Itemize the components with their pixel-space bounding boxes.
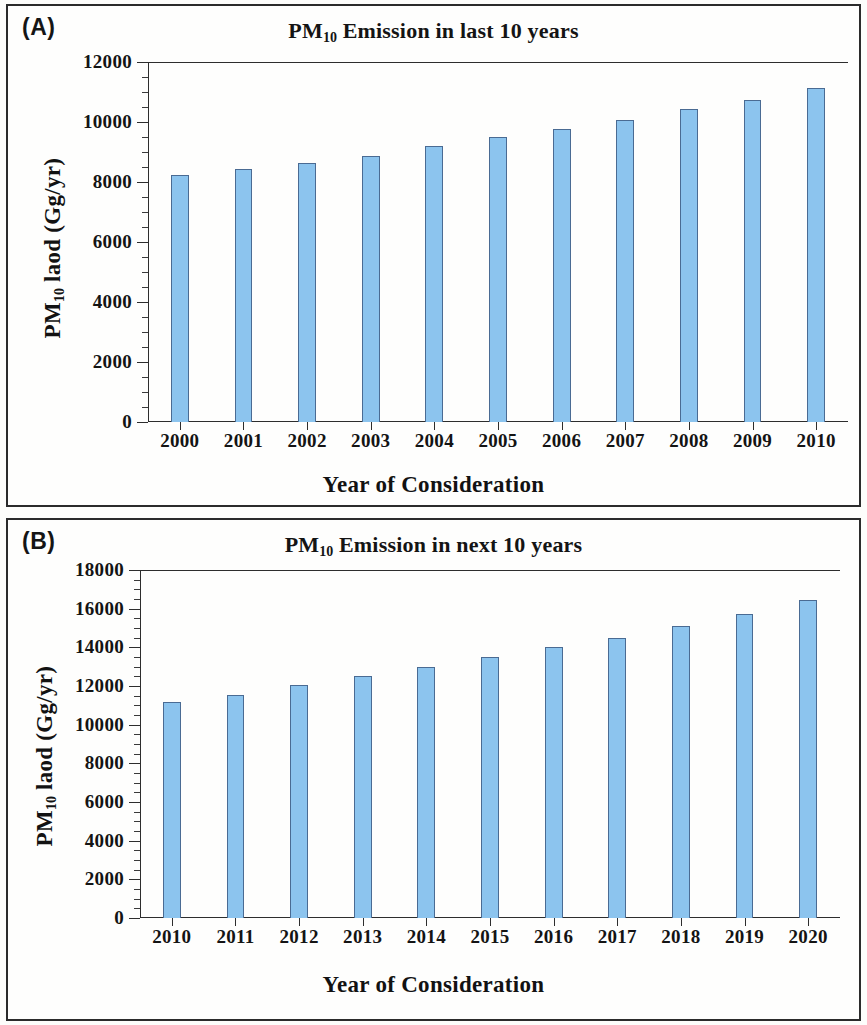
bar — [608, 638, 626, 918]
bar — [290, 685, 308, 918]
y-tick-label: 4000 — [93, 291, 132, 313]
plot-area-a: 020004000600080001000012000 — [148, 62, 848, 422]
y-tick-minor — [134, 676, 140, 677]
bar — [744, 100, 762, 422]
x-tick — [681, 918, 682, 926]
y-tick-major — [137, 362, 148, 363]
y-tick-minor — [134, 870, 140, 871]
x-tick — [490, 918, 491, 926]
x-tick-label: 2000 — [160, 430, 199, 452]
x-tick — [753, 422, 754, 430]
y-tick-minor — [142, 92, 148, 93]
plot-area-b: 0200040006000800010000120001400016000180… — [140, 570, 840, 918]
x-tick — [426, 918, 427, 926]
x-tick-label: 2017 — [598, 926, 637, 948]
bar — [807, 88, 825, 422]
y-tick-minor — [142, 77, 148, 78]
bar — [489, 137, 507, 422]
y-tick-minor — [134, 589, 140, 590]
y-tick-minor — [142, 272, 148, 273]
y-tick-label: 2000 — [93, 351, 132, 373]
x-tick-label: 2005 — [478, 430, 517, 452]
bar — [354, 676, 372, 918]
x-tick-label: 2018 — [661, 926, 700, 948]
y-tick-minor — [134, 657, 140, 658]
bar — [481, 657, 499, 918]
chart-title-b-suffix: Emission in next 10 years — [333, 532, 582, 557]
y-tick-minor — [142, 137, 148, 138]
y-axis-title-a-prefix: PM — [40, 302, 65, 338]
y-tick-label: 8000 — [85, 752, 124, 774]
x-tick — [243, 422, 244, 430]
x-tick-label: 2007 — [606, 430, 645, 452]
x-tick — [498, 422, 499, 430]
y-tick-label: 2000 — [85, 868, 124, 890]
y-tick-label: 8000 — [93, 171, 132, 193]
y-tick-major — [129, 725, 140, 726]
x-tick — [617, 918, 618, 926]
y-tick-minor — [142, 287, 148, 288]
bar — [417, 667, 435, 918]
y-tick-minor — [142, 167, 148, 168]
chart-title-a: PM10 Emission in last 10 years — [8, 18, 859, 46]
y-axis-title-b-prefix: PM — [32, 810, 57, 846]
x-tick — [816, 422, 817, 430]
y-tick-major — [137, 182, 148, 183]
x-tick — [371, 422, 372, 430]
y-tick-major — [137, 62, 148, 63]
y-tick-minor — [134, 628, 140, 629]
y-tick-minor — [142, 197, 148, 198]
y-tick-minor — [142, 107, 148, 108]
y-axis-title-a-suffix: laod (Gg/yr) — [40, 158, 65, 288]
x-tick-label: 2011 — [216, 926, 254, 948]
x-axis-labels-a: 2000200120022003200420052006200720082009… — [148, 430, 848, 456]
x-tick-label: 2010 — [797, 430, 836, 452]
chart-title-b-subscript: 10 — [319, 544, 333, 559]
y-tick-label: 0 — [114, 907, 124, 929]
bar — [235, 169, 253, 422]
y-tick-minor — [134, 831, 140, 832]
bar — [553, 129, 571, 422]
x-tick-label: 2016 — [534, 926, 573, 948]
bar — [227, 695, 245, 918]
y-tick-minor — [134, 899, 140, 900]
y-tick-minor — [142, 332, 148, 333]
y-tick-minor — [134, 773, 140, 774]
bar — [425, 146, 443, 422]
x-tick-label: 2013 — [343, 926, 382, 948]
y-axis-title-b: PM10 laod (Gg/yr) — [32, 606, 60, 906]
y-tick-minor — [142, 212, 148, 213]
y-tick-major — [129, 647, 140, 648]
x-tick-label: 2012 — [279, 926, 318, 948]
bar — [298, 163, 316, 422]
y-tick-label: 4000 — [85, 830, 124, 852]
y-axis-title-a-subscript: 10 — [52, 288, 67, 302]
y-tick-minor — [134, 812, 140, 813]
bar — [616, 120, 634, 422]
y-tick-major — [129, 918, 140, 919]
y-tick-minor — [142, 152, 148, 153]
y-tick-minor — [134, 744, 140, 745]
y-tick-label: 18000 — [75, 559, 124, 581]
bar — [736, 614, 754, 918]
x-tick-label: 2019 — [725, 926, 764, 948]
y-tick-minor — [142, 377, 148, 378]
y-tick-major — [129, 570, 140, 571]
y-tick-minor — [134, 792, 140, 793]
x-tick-label: 2004 — [415, 430, 454, 452]
y-tick-minor — [134, 734, 140, 735]
y-tick-major — [129, 841, 140, 842]
y-tick-minor — [134, 783, 140, 784]
y-tick-minor — [142, 407, 148, 408]
chart-panel-a: (A) PM10 Emission in last 10 years PM10 … — [6, 4, 861, 507]
y-tick-major — [129, 686, 140, 687]
y-tick-major — [129, 763, 140, 764]
x-axis-title-b: Year of Consideration — [0, 972, 867, 998]
figure-page: (A) PM10 Emission in last 10 years PM10 … — [0, 0, 867, 1025]
x-tick-label: 2020 — [789, 926, 828, 948]
y-tick-label: 14000 — [75, 636, 124, 658]
bar — [799, 600, 817, 918]
x-tick — [689, 422, 690, 430]
x-tick-label: 2003 — [351, 430, 390, 452]
y-tick-minor — [142, 392, 148, 393]
